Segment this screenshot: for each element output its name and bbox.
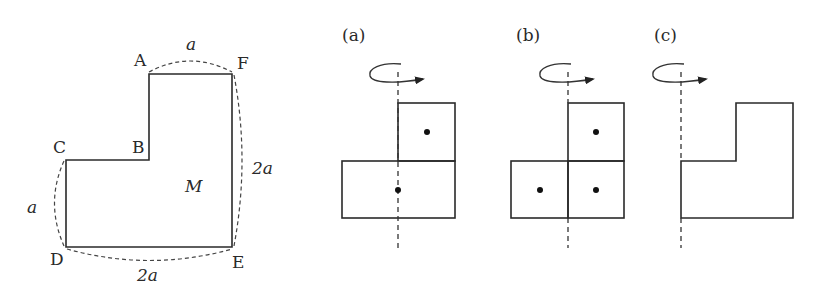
panel-b: (b) (511, 25, 624, 248)
dimension-curve-fe (234, 75, 242, 246)
vertex-label-c: C (53, 137, 66, 157)
dimension-label-de: 2a (136, 265, 158, 285)
vertex-label-b: B (132, 137, 145, 157)
dimension-label-cd: a (27, 197, 37, 217)
dimension-curve-af (149, 61, 232, 72)
l-shape-outline (681, 103, 793, 218)
dimension-curve-de (67, 249, 232, 261)
panel-label-c: (c) (654, 25, 677, 45)
panel-a: (a) (342, 25, 455, 248)
rotation-arrow-icon (653, 64, 706, 82)
vertex-label-a: A (133, 50, 147, 70)
centroid-dot (537, 187, 543, 193)
diagram-canvas: A F B C D E M a 2a 2a a (a) (b) (c) (0, 0, 821, 292)
dimension-curve-cd (55, 161, 65, 246)
panel-label-b: (b) (516, 25, 540, 45)
centroid-dot (593, 187, 599, 193)
rotation-arrow-icon (540, 64, 593, 82)
main-l-shape-figure: A F B C D E M a 2a 2a a (27, 34, 273, 285)
panel-label-a: (a) (342, 25, 365, 45)
centroid-dot (424, 129, 430, 135)
l-shape-outline (66, 74, 232, 247)
dimension-label-af: a (186, 34, 196, 54)
rotation-arrow-icon (370, 64, 423, 82)
panel-c: (c) (653, 25, 793, 248)
vertex-label-f: F (237, 53, 249, 73)
vertex-label-d: D (50, 249, 64, 269)
centroid-dot (395, 187, 401, 193)
vertex-label-e: E (232, 252, 244, 272)
region-label-m: M (184, 176, 203, 196)
centroid-dot (593, 129, 599, 135)
dimension-label-fe: 2a (251, 158, 273, 178)
